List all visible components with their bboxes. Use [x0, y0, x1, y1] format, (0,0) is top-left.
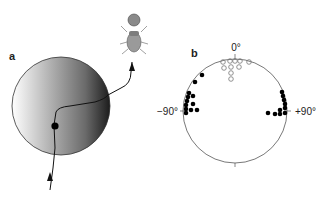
- label-plus-90: +90°: [295, 106, 316, 117]
- figure: a b 0° −90° +90°: [0, 0, 324, 198]
- shaded-disc: [12, 57, 110, 155]
- panel-a-label: a: [9, 50, 16, 62]
- open-circle-points: [221, 59, 252, 82]
- beetle-icon: [120, 14, 148, 54]
- label-0deg: 0°: [231, 42, 241, 53]
- panel-b-label: b: [191, 47, 198, 59]
- arrow-out-icon: [129, 62, 135, 71]
- start-point: [51, 122, 58, 129]
- label-minus-90: −90°: [157, 106, 178, 117]
